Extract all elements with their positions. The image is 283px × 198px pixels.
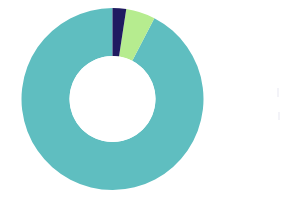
donut-center-hole (70, 56, 156, 142)
donut-chart (0, 0, 283, 198)
donut-chart-svg (0, 0, 283, 198)
page-edge-artifact-lower (278, 112, 280, 120)
page-edge-artifact-upper (277, 88, 279, 97)
